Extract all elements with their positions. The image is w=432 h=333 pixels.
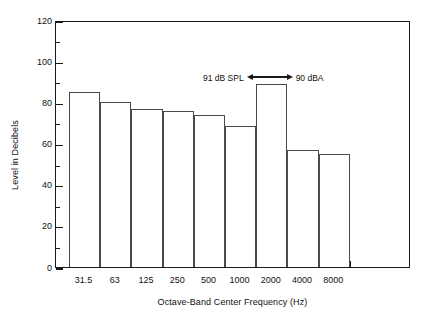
y-axis-tick-label: 120 bbox=[26, 17, 52, 26]
bar bbox=[287, 150, 318, 267]
bar bbox=[225, 126, 256, 267]
annotation-left-label: 91 dB SPL bbox=[203, 73, 244, 83]
bar bbox=[256, 84, 287, 267]
x-axis-tick-label: 8000 bbox=[313, 275, 353, 285]
y-axis-tick-label: 100 bbox=[26, 58, 52, 67]
y-axis-tick-label: 60 bbox=[26, 140, 52, 149]
y-axis-tick-label: 20 bbox=[26, 222, 52, 231]
bar bbox=[100, 102, 131, 267]
x-axis-title: Octave-Band Center Frequency (Hz) bbox=[55, 297, 410, 307]
double-headed-arrow-icon bbox=[247, 73, 293, 82]
y-axis-tick-major bbox=[56, 268, 63, 269]
annotation-right-label: 90 dBA bbox=[296, 73, 324, 83]
bar bbox=[319, 154, 350, 267]
spl-vs-dba-annotation: 91 dB SPL 90 dBA bbox=[203, 71, 324, 85]
y-axis-tick-label: 40 bbox=[26, 181, 52, 190]
bar bbox=[131, 109, 162, 267]
y-axis-tick-label: 0 bbox=[26, 264, 52, 273]
bar bbox=[69, 92, 100, 267]
bar-chart-figure: Level in Decibels 020406080100120 91 dB … bbox=[0, 0, 432, 333]
y-axis-title: Level in Decibels bbox=[10, 100, 20, 210]
bar bbox=[163, 111, 194, 267]
y-axis-tick-label: 80 bbox=[26, 99, 52, 108]
bar bbox=[194, 115, 225, 267]
plot-area: 91 dB SPL 90 dBA bbox=[55, 21, 410, 268]
x-axis-tick-labels: 31.5631252505001000200040008000 bbox=[0, 275, 432, 287]
bar-series bbox=[56, 22, 409, 267]
